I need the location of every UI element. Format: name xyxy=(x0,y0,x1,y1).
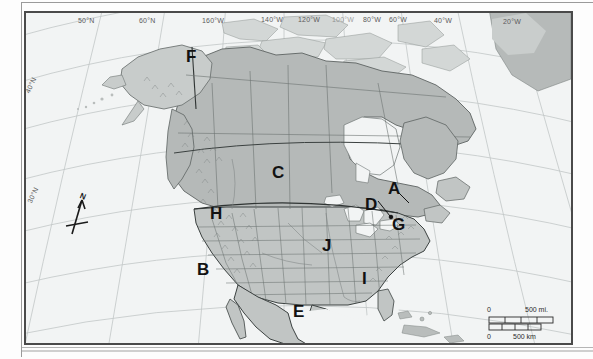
region-label-c: C xyxy=(272,164,284,181)
graticule-label-20w: 20°W xyxy=(503,18,521,25)
region-label-i: I xyxy=(362,270,367,287)
region-label-h: H xyxy=(210,205,222,222)
north-america-map-graphic xyxy=(26,13,571,343)
compass-rose: N xyxy=(58,192,98,244)
scale-miles-value: 500 mi. xyxy=(525,306,548,313)
scale-miles-zero: 0 xyxy=(487,306,491,313)
outer-rule-left xyxy=(21,2,22,357)
scale-km-value: 500 km xyxy=(513,333,536,340)
graticule-label-80w: 80°W xyxy=(363,16,381,23)
graticule-label-100w: 100°W xyxy=(332,16,354,23)
graticule-label-60w: 60°W xyxy=(389,16,407,23)
graticule-label-120w: 120°W xyxy=(298,16,320,23)
bottom-rule-1 xyxy=(22,347,593,348)
scale-bar-graphic xyxy=(487,316,567,334)
scale-km-zero: 0 xyxy=(487,333,491,340)
graticule-label-40w: 40°W xyxy=(434,17,452,24)
bottom-rule-2 xyxy=(22,350,593,352)
region-label-f: F xyxy=(186,48,196,65)
region-label-g: G xyxy=(392,216,405,233)
scale-bar: 0 500 mi. 0 500 km xyxy=(487,306,569,342)
graticule-label-60n: 60°N xyxy=(139,17,155,24)
region-label-e: E xyxy=(293,303,304,320)
region-label-d: D xyxy=(365,196,377,213)
region-label-j: J xyxy=(322,237,331,254)
map-canvas: 50°N 60°N 160°W 140°W 120°W 100°W 80°W 6… xyxy=(26,13,571,343)
region-label-b: B xyxy=(197,261,209,278)
graticule-label-50n: 50°N xyxy=(78,17,94,24)
region-label-a: A xyxy=(388,180,400,197)
map-frame: 50°N 60°N 160°W 140°W 120°W 100°W 80°W 6… xyxy=(24,11,573,345)
graticule-label-140w: 140°W xyxy=(261,16,283,23)
map-page: 50°N 60°N 160°W 140°W 120°W 100°W 80°W 6… xyxy=(0,0,593,359)
north-arrow-icon xyxy=(58,192,98,244)
graticule-label-160w: 160°W xyxy=(202,17,224,24)
outer-rule-top xyxy=(21,2,593,3)
